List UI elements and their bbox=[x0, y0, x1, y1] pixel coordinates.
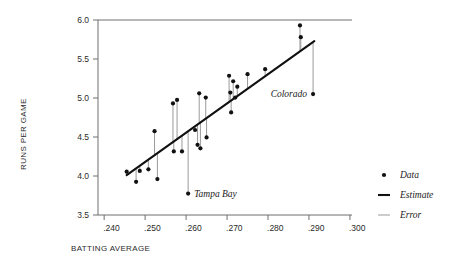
data-point-17 bbox=[227, 74, 231, 78]
y-tick-label-3: 5.0 bbox=[77, 93, 89, 103]
data-point-16 bbox=[204, 135, 208, 139]
data-point-5 bbox=[155, 177, 159, 181]
y-tick-label-1: 4.0 bbox=[77, 171, 89, 181]
point-annotations: Tampa BayColorado bbox=[194, 89, 307, 198]
data-point-2 bbox=[138, 169, 142, 173]
plot-frame bbox=[98, 20, 352, 215]
x-tick-label-2: .260 bbox=[185, 223, 202, 233]
data-point-18 bbox=[228, 90, 232, 94]
legend: DataEstimateError bbox=[378, 170, 433, 220]
false bbox=[382, 173, 386, 177]
data-point-13 bbox=[197, 91, 201, 95]
scatter-plot-figure: .240.250.260.270.280.290.300 3.54.04.55.… bbox=[0, 0, 469, 276]
annotation-colorado: Colorado bbox=[271, 89, 308, 99]
x-tick-label-6: .300 bbox=[349, 223, 366, 233]
x-tick-label-0: .240 bbox=[103, 223, 120, 233]
data-point-9 bbox=[180, 149, 184, 153]
data-point-10 bbox=[186, 191, 190, 195]
data-point-21 bbox=[233, 96, 237, 100]
data-point-24 bbox=[263, 67, 267, 71]
legend-label-data: Data bbox=[399, 170, 419, 180]
annotation-tampa-bay: Tampa Bay bbox=[194, 189, 237, 199]
y-axis-title: RUNS PER GAME bbox=[19, 98, 28, 170]
data-point-22 bbox=[235, 85, 239, 89]
data-point-19 bbox=[229, 110, 233, 114]
data-point-23 bbox=[245, 72, 249, 76]
data-point-12 bbox=[195, 143, 199, 147]
data-point-27 bbox=[311, 92, 315, 96]
data-point-11 bbox=[193, 128, 197, 132]
x-axis-title: BATTING AVERAGE bbox=[71, 244, 150, 253]
data-point-7 bbox=[172, 149, 176, 153]
y-tick-label-0: 3.5 bbox=[77, 210, 89, 220]
data-point-26 bbox=[299, 35, 303, 39]
data-point-1 bbox=[134, 180, 138, 184]
x-tick-label-4: .280 bbox=[267, 223, 284, 233]
x-axis-tick-labels: .240.250.260.270.280.290.300 bbox=[103, 223, 366, 233]
plot-canvas: .240.250.260.270.280.290.300 3.54.04.55.… bbox=[0, 0, 469, 276]
data-point-15 bbox=[204, 96, 208, 100]
y-tick-label-2: 4.5 bbox=[77, 132, 89, 142]
x-tick-label-5: .290 bbox=[308, 223, 325, 233]
y-axis-tick-labels: 3.54.04.55.05.56.0 bbox=[77, 15, 89, 220]
estimate-line bbox=[127, 41, 315, 175]
legend-label-estimate: Estimate bbox=[399, 190, 433, 200]
x-tick-label-1: .250 bbox=[144, 223, 161, 233]
estimate-regression-line bbox=[127, 41, 315, 175]
data-point-14 bbox=[198, 146, 202, 150]
data-point-0 bbox=[125, 170, 129, 174]
data-point-4 bbox=[152, 129, 156, 133]
data-point-8 bbox=[175, 98, 179, 102]
y-tick-label-5: 6.0 bbox=[77, 15, 89, 25]
data-point-3 bbox=[146, 167, 150, 171]
y-tick-label-4: 5.5 bbox=[77, 54, 89, 64]
data-point-25 bbox=[298, 23, 302, 27]
data-point-20 bbox=[231, 79, 235, 83]
legend-label-error: Error bbox=[399, 210, 422, 220]
x-tick-label-3: .270 bbox=[226, 223, 243, 233]
data-point-6 bbox=[171, 101, 175, 105]
